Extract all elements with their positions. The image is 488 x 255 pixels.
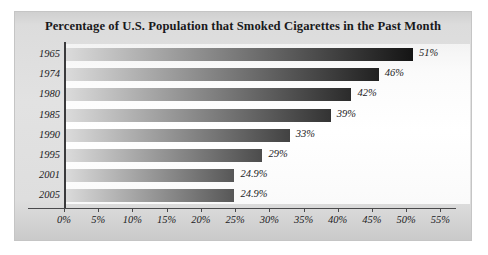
category-label-1965: 1965	[16, 48, 60, 59]
tick-mark	[98, 208, 99, 212]
tick-mark	[201, 208, 202, 212]
bar-value-label: 33%	[296, 128, 315, 139]
bar-row	[64, 106, 470, 126]
bar-row	[64, 45, 470, 65]
tick-mark	[406, 208, 407, 212]
category-label-1974: 1974	[16, 68, 60, 79]
bar-1974	[64, 68, 379, 81]
bar-row	[64, 65, 470, 85]
bar-value-label: 46%	[385, 67, 404, 78]
tick-mark	[235, 208, 236, 212]
category-label-1985: 1985	[16, 109, 60, 120]
bar-row	[64, 146, 470, 166]
bar-value-label: 24.9%	[240, 188, 267, 199]
tick-mark	[338, 208, 339, 212]
bar-1995	[64, 149, 262, 162]
tick-mark	[372, 208, 373, 212]
bar-1965	[64, 48, 413, 61]
chart-figure: Percentage of U.S. Population that Smoke…	[0, 0, 488, 255]
tick-mark	[64, 208, 65, 212]
bar-value-label: 42%	[357, 87, 376, 98]
tick-mark	[304, 208, 305, 212]
tick-mark	[440, 208, 441, 212]
tick-mark	[167, 208, 168, 212]
plot-area: 51%46%42%39%33%29%24.9%24.9%	[64, 44, 470, 204]
category-label-1980: 1980	[16, 88, 60, 99]
bar-1985	[64, 109, 331, 122]
bar-row	[64, 85, 470, 105]
category-axis-line	[28, 208, 456, 209]
category-label-2001: 2001	[16, 169, 60, 180]
bar-2005	[64, 189, 234, 202]
category-label-2005: 2005	[16, 189, 60, 200]
chart-panel: Percentage of U.S. Population that Smoke…	[14, 11, 472, 241]
bar-row	[64, 126, 470, 146]
bar-value-label: 29%	[268, 148, 287, 159]
bar-value-label: 39%	[337, 108, 356, 119]
bar-1980	[64, 88, 351, 101]
tick-label-55%: 55%	[420, 214, 460, 225]
bar-value-label: 51%	[419, 47, 438, 58]
tick-mark	[269, 208, 270, 212]
category-label-1990: 1990	[16, 129, 60, 140]
value-axis-line	[64, 42, 66, 208]
category-label-1995: 1995	[16, 149, 60, 160]
tick-mark	[132, 208, 133, 212]
chart-title: Percentage of U.S. Population that Smoke…	[14, 19, 472, 34]
bar-value-label: 24.9%	[240, 168, 267, 179]
bar-2001	[64, 169, 234, 182]
bar-1990	[64, 129, 290, 142]
